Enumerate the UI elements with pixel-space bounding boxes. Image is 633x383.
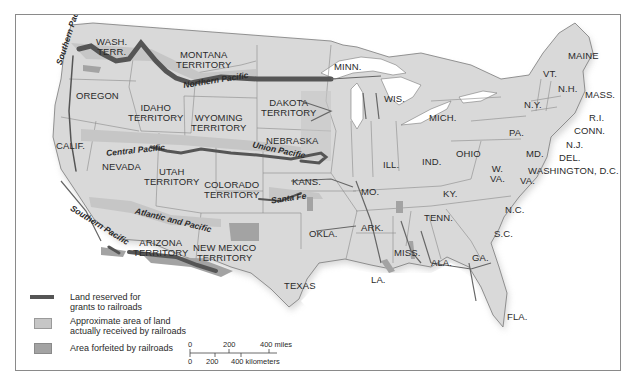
lake-michigan — [351, 83, 363, 129]
label-dc: WASHINGTON, D.C. — [528, 166, 619, 176]
label-wis: WIS. — [384, 94, 405, 104]
label-colorado: COLORADOTERRITORY — [204, 180, 259, 200]
gulf-of-mexico — [301, 263, 481, 351]
scale-km-0: 0 — [188, 357, 192, 366]
legend-label: Area forfeited by railroads — [70, 343, 173, 353]
label-wva: W.VA. — [490, 164, 505, 184]
label-kans: KANS. — [292, 177, 321, 187]
label-ark: ARK. — [361, 223, 384, 233]
legend-label: grants to railroads — [70, 302, 142, 312]
label-wash: WASH.TERR. — [96, 37, 127, 57]
label-ky: KY. — [443, 189, 457, 199]
label-arizona: ARIZONATERRITORY — [133, 238, 188, 258]
scale-line — [189, 349, 279, 357]
label-ohio: OHIO — [456, 149, 481, 159]
scale-miles-200: 200 — [223, 340, 236, 349]
label-montana: MONTANATERRITORY — [176, 50, 231, 70]
legend-label: Approximate area of land — [70, 316, 186, 326]
label-miss: MISS. — [394, 248, 420, 258]
label-md: MD. — [526, 149, 544, 159]
label-nc: N.C. — [505, 205, 524, 215]
legend-label: actually received by railroads — [70, 326, 186, 336]
label-sc: S.C. — [494, 229, 513, 239]
label-nevada: NEVADA — [102, 162, 141, 172]
label-nh: N.H. — [558, 84, 577, 94]
label-la: LA. — [371, 275, 386, 285]
scale-miles-400: 400 miles — [260, 340, 292, 349]
label-maine: MAINE — [568, 51, 599, 61]
label-texas: TEXAS — [284, 281, 316, 291]
label-pa: PA. — [509, 128, 524, 138]
label-tenn: TENN. — [424, 213, 453, 223]
label-dakota: DAKOTATERRITORY — [261, 98, 316, 118]
label-minn: MINN. — [334, 62, 361, 72]
label-ind: IND. — [422, 157, 441, 167]
label-ri: R.I. — [589, 113, 604, 123]
label-vt: VT. — [543, 69, 557, 79]
label-okla: OKLA. — [309, 229, 338, 239]
label-mass: MASS. — [585, 90, 615, 100]
label-utah: UTAHTERRITORY — [144, 167, 199, 187]
legend-swatch-dark-box — [34, 343, 52, 354]
label-ala: ALA. — [431, 258, 452, 268]
label-ill: ILL. — [383, 160, 399, 170]
label-calif: CALIF. — [56, 141, 85, 151]
legend-swatch-thick-line — [30, 295, 54, 299]
scale-miles-0: 0 — [188, 340, 192, 349]
label-va: VA. — [520, 176, 535, 186]
label-mo: MO. — [361, 187, 379, 197]
label-oregon: OREGON — [76, 91, 119, 101]
label-wyoming: WYOMINGTERRITORY — [191, 113, 246, 133]
label-del: DEL. — [559, 153, 581, 163]
label-ga: GA. — [472, 253, 489, 263]
label-newmexico: NEW MEXICOTERRITORY — [193, 243, 256, 263]
label-conn: CONN. — [574, 126, 605, 136]
label-ny: N.Y. — [524, 100, 542, 110]
label-fla: FLA. — [507, 312, 527, 322]
label-idaho: IDAHOTERRITORY — [128, 103, 183, 123]
scale-km-200: 200 — [206, 357, 219, 366]
label-mich: MICH. — [429, 113, 456, 123]
label-nj: N.J. — [566, 140, 583, 150]
legend-swatch-light-box — [34, 318, 52, 329]
legend-label: Land reserved for — [70, 292, 142, 302]
scale-km-400: 400 kilometers — [231, 357, 280, 366]
